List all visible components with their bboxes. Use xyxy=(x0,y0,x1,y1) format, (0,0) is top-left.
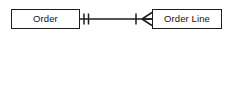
entity-label-order: Order xyxy=(33,14,58,24)
crowsfoot-prong-lower xyxy=(142,19,152,26)
er-diagram-canvas: Order Order Line xyxy=(0,0,233,110)
crowsfoot-prong-upper xyxy=(142,13,152,20)
entity-label-order-line: Order Line xyxy=(164,14,210,24)
entity-box-order-line[interactable]: Order Line xyxy=(152,9,222,29)
crowsfoot-icon xyxy=(142,13,152,26)
entity-box-order[interactable]: Order xyxy=(11,9,80,29)
